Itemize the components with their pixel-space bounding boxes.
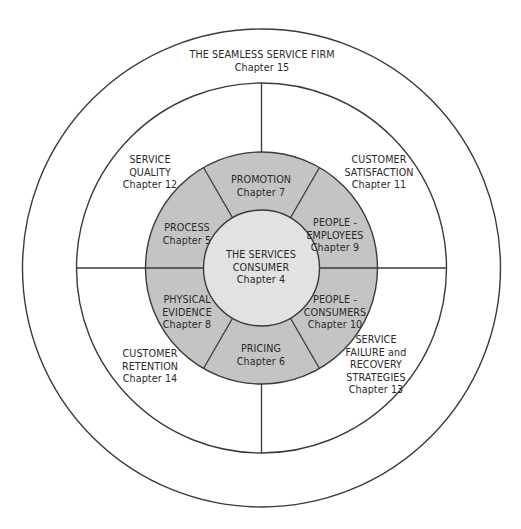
label-chapter: Chapter 13 [346,384,407,397]
label-line: PEOPLE - [304,294,367,307]
label-pricing: PRICING Chapter 6 [237,343,285,368]
label-line: PROCESS [163,222,211,235]
label-physical-evidence: PHYSICAL EVIDENCE Chapter 8 [162,294,212,332]
label-services-consumer: THE SERVICES CONSUMER Chapter 4 [226,249,296,287]
label-line: FAILURE and [346,347,407,360]
label-line: EVIDENCE [162,307,212,320]
label-chapter: Chapter 12 [123,179,178,192]
label-line: SATISFACTION [344,167,413,180]
label-promotion: PROMOTION Chapter 7 [231,174,291,199]
label-chapter: Chapter 7 [231,187,291,200]
label-chapter: Chapter 10 [304,319,367,332]
label-line: PHYSICAL [162,294,212,307]
label-title: THE SEAMLESS SERVICE FIRM [189,49,334,62]
label-line: STRATEGIES [346,372,407,385]
label-line: RECOVERY [346,359,407,372]
label-line: CONSUMER [226,262,296,275]
label-chapter: Chapter 11 [344,179,413,192]
label-service-failure: SERVICE FAILURE and RECOVERY STRATEGIES … [346,334,407,397]
label-line: EMPLOYEES [306,230,363,243]
label-people-consumers: PEOPLE - CONSUMERS Chapter 10 [304,294,367,332]
label-line: SERVICE [346,334,407,347]
label-line: PEOPLE - [306,217,363,230]
label-seamless-service-firm: THE SEAMLESS SERVICE FIRM Chapter 15 [189,49,334,74]
label-line: PRICING [237,343,285,356]
label-process: PROCESS Chapter 5 [163,222,211,247]
label-chapter: Chapter 9 [306,242,363,255]
label-line: CUSTOMER [344,154,413,167]
label-chapter: Chapter 8 [162,319,212,332]
label-line: SERVICE [123,154,178,167]
label-line: RETENTION [122,361,178,374]
label-line: THE SERVICES [226,249,296,262]
label-chapter: Chapter 14 [122,373,178,386]
label-customer-retention: CUSTOMER RETENTION Chapter 14 [122,348,178,386]
label-line: CUSTOMER [122,348,178,361]
label-line: CONSUMERS [304,307,367,320]
label-line: PROMOTION [231,174,291,187]
label-chapter: Chapter 5 [163,235,211,248]
label-line: QUALITY [123,167,178,180]
label-service-quality: SERVICE QUALITY Chapter 12 [123,154,178,192]
seamless-service-diagram: THE SEAMLESS SERVICE FIRM Chapter 15 SER… [0,0,521,529]
label-chapter: Chapter 15 [189,62,334,75]
label-chapter: Chapter 4 [226,274,296,287]
label-chapter: Chapter 6 [237,356,285,369]
label-customer-satisfaction: CUSTOMER SATISFACTION Chapter 11 [344,154,413,192]
label-people-employees: PEOPLE - EMPLOYEES Chapter 9 [306,217,363,255]
